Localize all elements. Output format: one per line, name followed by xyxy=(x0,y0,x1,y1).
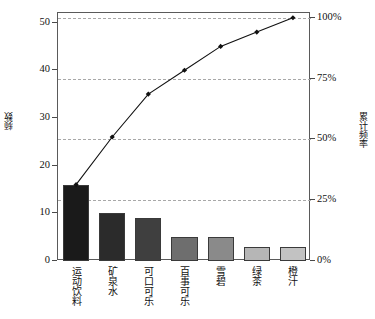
y-axis-title-left: 频数 xyxy=(4,112,13,130)
y-axis-title-right: 累计频率 xyxy=(358,112,367,148)
y-tick-mark-left xyxy=(52,22,57,23)
x-axis-category-label: 雪碧 xyxy=(215,266,225,286)
y-tick-label-right: 50% xyxy=(317,133,336,144)
cumulative-line-series: 运动饮料: 31.4%矿泉水: 51.0%可口可乐: 68.6%百事可乐: 78… xyxy=(58,13,311,261)
y-tick-label-left: 30 xyxy=(40,112,51,123)
y-tick-mark-right xyxy=(310,199,315,200)
y-tick-mark-left xyxy=(52,165,57,166)
y-tick-mark-left xyxy=(52,212,57,213)
x-axis-category-label: 橙汁 xyxy=(287,266,297,286)
y-tick-label-right: 25% xyxy=(317,194,336,205)
y-tick-label-left: 20 xyxy=(40,159,51,170)
x-axis-category-label: 绿茶 xyxy=(251,266,261,286)
y-axis-right-ticks: 0%25%50%75%100% xyxy=(317,0,357,319)
y-tick-label-left: 40 xyxy=(40,64,51,75)
x-axis-category-label: 运动饮料 xyxy=(70,266,80,306)
pareto-chart: 频数 累计频率 01020304050 0%25%50%75%100% 运动饮料… xyxy=(0,0,375,319)
y-axis-left-ticks: 01020304050 xyxy=(22,0,50,319)
y-tick-mark-right xyxy=(310,260,315,261)
line-marker: 绿茶: 94.1% xyxy=(254,29,259,34)
y-tick-label-right: 0% xyxy=(317,255,331,266)
cumulative-line xyxy=(76,18,293,185)
plot-area: 运动饮料: 31.4%矿泉水: 51.0%可口可乐: 68.6%百事可乐: 78… xyxy=(57,12,310,260)
y-tick-label-left: 50 xyxy=(40,16,51,27)
x-axis-category-label: 可口可乐 xyxy=(142,266,152,306)
y-tick-mark-left xyxy=(52,260,57,261)
x-axis-category-label: 矿泉水 xyxy=(106,266,116,296)
y-tick-label-right: 75% xyxy=(317,72,336,83)
y-tick-label-left: 0 xyxy=(45,255,50,266)
y-tick-mark-left xyxy=(52,117,57,118)
y-tick-mark-left xyxy=(52,69,57,70)
x-axis-category-label: 百事可乐 xyxy=(179,266,189,306)
y-tick-label-left: 10 xyxy=(40,207,51,218)
y-tick-label-right: 100% xyxy=(317,12,342,23)
line-marker: 橙汁: 100% xyxy=(290,15,295,20)
y-tick-mark-right xyxy=(310,138,315,139)
y-tick-mark-right xyxy=(310,78,315,79)
y-tick-mark-right xyxy=(310,17,315,18)
